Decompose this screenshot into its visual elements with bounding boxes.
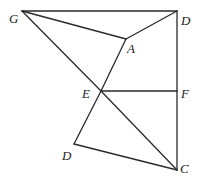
label-F: F [180, 86, 190, 101]
label-E: E [81, 86, 90, 101]
segment-GA [22, 11, 126, 39]
segment-GE [22, 11, 101, 91]
segment-AD [126, 11, 177, 39]
label-D-top: D [180, 13, 191, 28]
label-G: G [9, 11, 19, 26]
segments [22, 11, 177, 170]
segment-AE [101, 39, 126, 91]
geometry-diagram: G D A E F D C [0, 0, 201, 179]
segment-EC [101, 91, 177, 170]
segment-DC [74, 144, 177, 170]
label-D-bottom: D [61, 148, 72, 163]
label-A: A [126, 41, 135, 56]
label-C: C [180, 161, 189, 176]
